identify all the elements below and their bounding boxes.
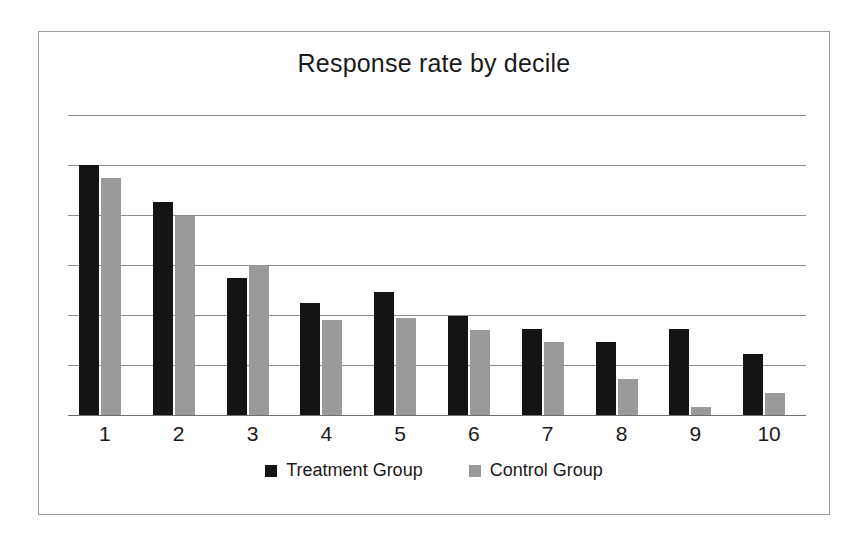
bar-control-5: [396, 318, 416, 415]
bar-control-2: [175, 216, 195, 415]
x-axis-label-6: 6: [444, 422, 504, 446]
axis-baseline: [68, 415, 806, 416]
bar-group: [522, 115, 564, 415]
chart-frame: Response rate by decile 12345678910 Trea…: [38, 31, 830, 515]
chart-legend: Treatment GroupControl Group: [39, 460, 829, 481]
bar-group: [300, 115, 342, 415]
x-axis-labels: 12345678910: [68, 422, 806, 452]
bar-treatment-6: [448, 316, 468, 415]
bars-layer: [68, 115, 806, 415]
x-axis-label-9: 9: [665, 422, 725, 446]
bar-treatment-10: [743, 354, 763, 415]
bar-control-6: [470, 330, 490, 415]
legend-label: Treatment Group: [286, 460, 422, 481]
bar-group: [596, 115, 638, 415]
bar-treatment-7: [522, 329, 542, 415]
x-axis-label-10: 10: [739, 422, 799, 446]
bar-group: [79, 115, 121, 415]
bar-control-8: [618, 379, 638, 415]
bar-control-4: [322, 320, 342, 415]
x-axis-label-4: 4: [296, 422, 356, 446]
bar-group: [669, 115, 711, 415]
bar-treatment-2: [153, 202, 173, 415]
legend-item-control[interactable]: Control Group: [469, 460, 603, 481]
x-axis-label-1: 1: [75, 422, 135, 446]
x-axis-label-7: 7: [518, 422, 578, 446]
x-axis-label-5: 5: [370, 422, 430, 446]
bar-group: [153, 115, 195, 415]
bar-treatment-5: [374, 292, 394, 415]
bar-group: [448, 115, 490, 415]
bar-group: [374, 115, 416, 415]
bar-treatment-1: [79, 165, 99, 415]
chart-title: Response rate by decile: [39, 49, 829, 78]
legend-item-treatment[interactable]: Treatment Group: [265, 460, 422, 481]
bar-treatment-3: [227, 278, 247, 415]
legend-swatch-treatment-icon: [265, 465, 277, 477]
x-axis-label-2: 2: [149, 422, 209, 446]
bar-control-1: [101, 178, 121, 415]
bar-treatment-4: [300, 303, 320, 415]
bar-group: [227, 115, 269, 415]
bar-control-3: [249, 265, 269, 415]
bar-control-10: [765, 393, 785, 415]
plot-area: [68, 115, 806, 415]
bar-treatment-9: [669, 329, 689, 415]
bar-control-7: [544, 342, 564, 415]
bar-treatment-8: [596, 342, 616, 415]
legend-swatch-control-icon: [469, 465, 481, 477]
x-axis-label-8: 8: [592, 422, 652, 446]
bar-group: [743, 115, 785, 415]
legend-label: Control Group: [490, 460, 603, 481]
bar-control-9: [691, 407, 711, 415]
x-axis-label-3: 3: [223, 422, 283, 446]
